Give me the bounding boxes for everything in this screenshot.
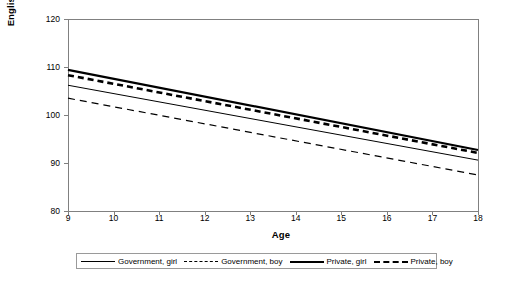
legend-label: Government, boy	[218, 257, 289, 266]
series-line-government-girl	[68, 85, 478, 160]
series-line-private-boy	[68, 75, 478, 153]
legend-swatch-icon	[374, 256, 408, 266]
legend-label: Private, boy	[408, 257, 460, 266]
legend-swatch-icon	[81, 256, 115, 266]
x-axis-title: Age	[0, 229, 514, 240]
x-axis-title-text: Age	[272, 229, 291, 240]
legend-label: Government, girl	[115, 257, 184, 266]
legend-swatch-icon	[290, 256, 324, 266]
legend-entry: Private, girl	[290, 254, 374, 268]
legend-entry: Government, boy	[184, 254, 289, 268]
chart-figure: English standardised score 1201101009080…	[0, 0, 514, 282]
chart-legend: Government, girlGovernment, boyPrivate, …	[76, 253, 437, 269]
legend-entry: Government, girl	[81, 254, 184, 268]
legend-swatch-icon	[184, 256, 218, 266]
legend-entry: Private, boy	[374, 254, 460, 268]
plot-frame	[69, 20, 479, 212]
legend-label: Private, girl	[324, 257, 374, 266]
